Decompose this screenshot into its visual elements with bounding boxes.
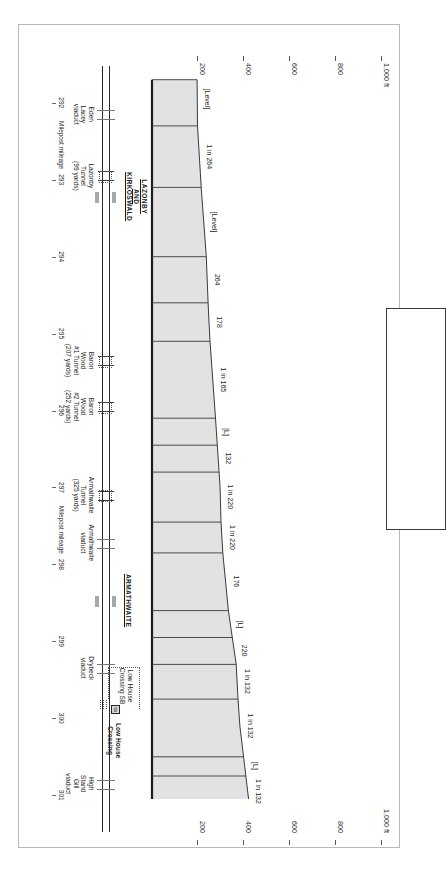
milepost-tick-label: 300 xyxy=(58,713,65,724)
station-platform xyxy=(95,192,99,203)
gradient-segment-label: 1 in 220 xyxy=(226,484,234,509)
gradient-segment-label: 132 xyxy=(224,452,232,464)
gradient-segment-label: 264 xyxy=(213,274,221,286)
milepost-tick-label: 293 xyxy=(58,174,65,185)
feature-label: BaronWood#2 Tunnel(252 yards) xyxy=(64,390,94,423)
station-platform xyxy=(95,596,99,607)
feature-label: BaronWood#1 Tunnel(207 yards) xyxy=(64,344,94,377)
crossing-hatch xyxy=(106,700,107,709)
milepost-tick-mark xyxy=(52,718,56,719)
tunnel-bore-marker xyxy=(99,356,112,368)
crossing-callout-label: Low HouseCrossing SB xyxy=(118,668,133,705)
milepost-tick-mark xyxy=(52,641,56,642)
feature-label: EdenLaceyviaduct xyxy=(72,104,95,125)
milepost-tick-label: 297 xyxy=(58,482,65,493)
milepost-tick-mark xyxy=(52,487,56,488)
station-name-label: ARMATHWAITE xyxy=(124,574,132,627)
tunnel-bore-marker xyxy=(99,402,112,414)
milepost-tick-mark xyxy=(52,103,56,104)
milepost-tick-mark xyxy=(52,564,56,565)
milepost-tick-label: 298 xyxy=(58,559,65,570)
feature-label: Drybeckviaduct xyxy=(79,656,94,680)
gradient-segment-label: 1 in 132 xyxy=(253,779,261,804)
milepost-tick-label: 295 xyxy=(58,328,65,339)
gradient-segment-label: [Level] xyxy=(209,212,217,233)
signal-box-marker: SB xyxy=(111,705,120,714)
crossing-hatch xyxy=(100,700,101,709)
gradient-segment-label: 176 xyxy=(231,575,239,587)
crossing-name-label: Low HouseCrossing xyxy=(106,723,121,758)
milepost-axis-caption: Milepost mileage xyxy=(58,121,65,169)
milepost-tick-label: 299 xyxy=(58,636,65,647)
feature-label: LazonbyTunnel(99 yards) xyxy=(72,161,95,191)
milepost-tick-label: 301 xyxy=(58,790,65,801)
gradient-segment-label: [L] xyxy=(250,762,258,770)
gradient-segment-label: 1 in 220 xyxy=(227,525,235,550)
milepost-tick-mark xyxy=(52,180,56,181)
station-platform xyxy=(112,192,116,203)
crossing-callout-line-bottom xyxy=(108,667,109,699)
gradient-segment-label: 1 in 132 xyxy=(243,669,251,694)
gradient-segment-label: [L] xyxy=(236,621,244,629)
feature-label: HighStandGillviaduct xyxy=(64,773,94,794)
milepost-tick-mark xyxy=(52,334,56,335)
gradient-segment-label: 220 xyxy=(240,645,248,657)
tunnel-bore-marker xyxy=(99,490,112,502)
gradient-segment-label: 1 in 132 xyxy=(245,714,253,739)
crossing-hatch xyxy=(103,700,104,709)
viaduct-marker xyxy=(97,780,115,790)
gradient-profile-plot xyxy=(28,20,410,844)
milepost-tick-label: 292 xyxy=(58,97,65,108)
milepost-tick-mark xyxy=(52,257,56,258)
station-name-label: LAZONBYANDKIRKOSWALD xyxy=(125,172,148,221)
gradient-segment-label: [Level] xyxy=(203,89,211,110)
gradient-segment-label: 178 xyxy=(215,316,223,328)
station-platform xyxy=(112,596,116,607)
milepost-tick-mark xyxy=(52,411,56,412)
gradient-segment-label: 1 in 264 xyxy=(205,144,213,169)
crossing-callout-line-top xyxy=(139,667,140,709)
feature-label: Armathwaiteviaduct xyxy=(79,525,94,562)
gradient-profile-canvas: 1,000 ft800600400200 1,000 ft80060040020… xyxy=(10,20,410,860)
milepost-axis-caption: Milepost mileage xyxy=(58,506,65,554)
tunnel-bore-marker xyxy=(99,171,112,183)
gradient-segment-label: [L] xyxy=(222,428,230,436)
milepost-tick-label: 294 xyxy=(58,251,65,262)
feature-label: ArmathwaiteTunnel(325 yards) xyxy=(72,477,95,514)
viaduct-marker xyxy=(97,110,115,120)
milepost-tick-mark xyxy=(52,795,56,796)
key-box xyxy=(386,308,446,530)
viaduct-marker xyxy=(97,539,115,549)
gradient-segment-label: 1 in 165 xyxy=(218,367,226,392)
milepost-tick-label: 296 xyxy=(58,405,65,416)
